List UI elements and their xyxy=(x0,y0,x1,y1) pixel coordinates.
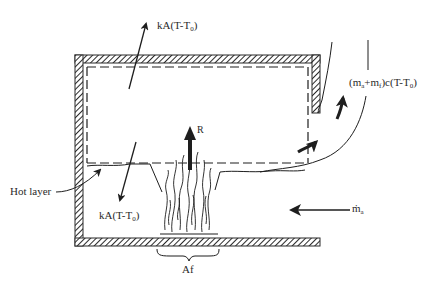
air-inflow-label: ṁa xyxy=(352,203,364,216)
floor-heat-loss-arrow xyxy=(120,142,136,200)
hot-layer-boundary xyxy=(87,67,308,163)
outflow-label: (ma+mf)c(T-T0) xyxy=(349,77,417,90)
radiation-label: R xyxy=(197,125,204,135)
hot-layer-interface xyxy=(87,164,305,192)
left-wall xyxy=(75,55,83,246)
fire-area-brace xyxy=(157,249,219,261)
outflow-arrow-lower xyxy=(298,142,316,152)
ceiling-wall xyxy=(75,55,320,63)
right-wall-soffit xyxy=(312,55,320,113)
fire-area-label: Af xyxy=(182,264,194,275)
floor-wall xyxy=(75,238,320,246)
hot-layer-label: Hot layer xyxy=(10,186,51,197)
compartment-fire-diagram xyxy=(0,0,447,282)
floor-heat-loss-label: kA(T-T0) xyxy=(99,210,139,223)
ceiling-heat-loss-label: kA(T-T0) xyxy=(157,20,197,33)
outflow-arrow-upper xyxy=(337,98,343,119)
